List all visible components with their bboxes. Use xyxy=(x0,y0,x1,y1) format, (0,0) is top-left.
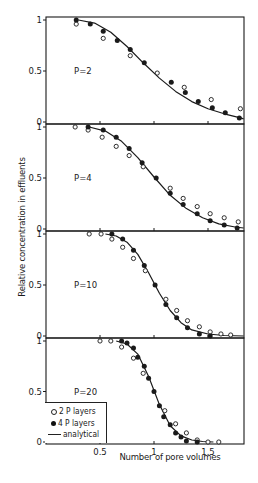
filled-point xyxy=(195,440,200,445)
filled-point xyxy=(197,331,202,336)
filled-point xyxy=(183,90,188,95)
open-point xyxy=(195,204,199,208)
filled-point xyxy=(184,438,189,443)
y-tick-label: 1 xyxy=(37,122,42,132)
analytical-curve xyxy=(105,234,243,336)
open-point xyxy=(168,186,172,190)
filled-point xyxy=(115,38,120,43)
filled-point xyxy=(235,225,240,230)
filled-point xyxy=(173,430,178,435)
open-point xyxy=(163,409,167,413)
open-point xyxy=(141,371,145,375)
line-icon xyxy=(48,434,61,435)
y-tick-label: 0 xyxy=(37,437,42,447)
filled-point xyxy=(185,325,190,330)
open-point xyxy=(114,144,118,148)
filled-point xyxy=(163,302,168,307)
open-point xyxy=(141,165,145,169)
filled-point xyxy=(128,47,133,52)
filled-point xyxy=(127,146,132,151)
filled-point xyxy=(88,22,93,27)
filled-point xyxy=(223,110,228,115)
open-point xyxy=(128,54,132,58)
filled-point xyxy=(135,355,140,360)
open-point xyxy=(222,216,226,220)
filled-point xyxy=(142,60,147,65)
open-point xyxy=(109,339,113,343)
open-point xyxy=(164,297,168,301)
open-point xyxy=(236,220,240,224)
legend: 2 P layers 4 P layers analytical xyxy=(45,402,107,443)
filled-point xyxy=(140,160,145,165)
filled-circle-icon xyxy=(51,421,56,426)
open-point xyxy=(238,107,242,111)
open-point xyxy=(229,333,233,337)
filled-point xyxy=(161,414,166,419)
y-tick-label: 0.5 xyxy=(28,387,42,397)
analytical-curve xyxy=(116,341,213,442)
panel-p-10: 00.51P=10 xyxy=(28,229,244,341)
open-point xyxy=(185,319,189,323)
breakthrough-curves-chart: 00.51P=200.51P=400.51P=1000.51P=200.511.… xyxy=(0,0,258,483)
open-point xyxy=(206,440,210,444)
filled-point xyxy=(196,99,201,104)
panel-p-4: 00.51P=4 xyxy=(28,122,244,234)
filled-point xyxy=(146,376,151,381)
y-tick-label: 0.5 xyxy=(28,66,42,76)
filled-point xyxy=(101,128,106,133)
open-point xyxy=(209,97,213,101)
open-point xyxy=(155,71,159,75)
open-point xyxy=(120,345,124,349)
legend-item-4p: 4 P layers xyxy=(45,418,106,430)
open-point xyxy=(101,36,105,40)
open-point xyxy=(208,212,212,216)
open-point xyxy=(131,256,135,260)
filled-point xyxy=(237,115,242,120)
filled-point xyxy=(154,176,159,181)
open-point xyxy=(208,330,212,334)
open-point xyxy=(73,125,77,129)
filled-point xyxy=(168,191,173,196)
filled-point xyxy=(142,364,147,369)
filled-point xyxy=(208,218,213,223)
filled-point xyxy=(101,29,106,34)
open-point xyxy=(219,332,223,336)
y-tick-label: 1 xyxy=(37,336,42,346)
filled-point xyxy=(210,105,215,110)
filled-point xyxy=(131,248,136,253)
filled-point xyxy=(86,125,91,130)
open-point xyxy=(121,245,125,249)
legend-label-4p: 4 P layers xyxy=(58,418,95,429)
open-point xyxy=(197,325,201,329)
filled-point xyxy=(195,211,200,216)
analytical-curve xyxy=(78,20,243,119)
open-point xyxy=(100,135,104,139)
legend-item-analytical: analytical xyxy=(45,429,106,441)
filled-point xyxy=(174,315,179,320)
y-tick-label: 0.5 xyxy=(28,280,42,290)
open-point xyxy=(87,232,91,236)
filled-point xyxy=(157,403,162,408)
panel-label: P=4 xyxy=(74,173,92,183)
filled-point xyxy=(181,202,186,207)
legend-label-2p: 2 P layers xyxy=(59,406,96,417)
analytical-curve xyxy=(89,127,243,228)
open-point xyxy=(182,85,186,89)
filled-point xyxy=(169,80,174,85)
y-tick-label: 1 xyxy=(37,15,42,25)
filled-point xyxy=(153,283,158,288)
filled-point xyxy=(125,341,130,346)
filled-point xyxy=(131,346,136,351)
filled-point xyxy=(109,232,114,237)
filled-point xyxy=(119,339,124,344)
panel-label: P=10 xyxy=(74,280,97,290)
filled-point xyxy=(142,263,147,268)
y-axis-label: Relative concentration in effluents xyxy=(17,147,27,307)
filled-point xyxy=(152,389,157,394)
filled-point xyxy=(120,237,125,242)
y-tick-label: 0.5 xyxy=(28,173,42,183)
open-circle-icon xyxy=(51,409,57,415)
filled-point xyxy=(74,18,79,23)
filled-point xyxy=(114,135,119,140)
open-point xyxy=(99,232,103,236)
